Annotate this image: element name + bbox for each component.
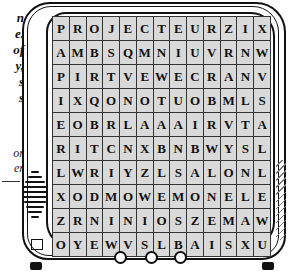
grid-cell: I bbox=[237, 17, 254, 41]
grid-cell: N bbox=[120, 209, 137, 233]
grid-cell: B bbox=[87, 41, 104, 65]
grid-cell: W bbox=[204, 137, 221, 161]
grid-cell: O bbox=[187, 185, 204, 209]
grid-cell: O bbox=[154, 209, 171, 233]
grid-cell: V bbox=[254, 65, 271, 89]
grid-cell: W bbox=[254, 41, 271, 65]
grid-cell: R bbox=[204, 65, 221, 89]
grid-cell: O bbox=[120, 185, 137, 209]
grid-cell: Z bbox=[137, 161, 154, 185]
grid-cell: E bbox=[120, 17, 137, 41]
grid-cell: R bbox=[87, 161, 104, 185]
grid-cell: I bbox=[70, 65, 87, 89]
grid-cell: M bbox=[137, 41, 154, 65]
grid-cell: A bbox=[187, 161, 204, 185]
grid-cell: N bbox=[237, 161, 254, 185]
grid-cell: E bbox=[254, 185, 271, 209]
grid-cell: L bbox=[204, 161, 221, 185]
tv-foot-right bbox=[262, 262, 274, 270]
grid-cell: X bbox=[137, 137, 154, 161]
grid-cell: O bbox=[221, 161, 238, 185]
grid-cell: X bbox=[53, 185, 70, 209]
grid-cell: S bbox=[221, 233, 238, 257]
grid-cell: R bbox=[204, 113, 221, 137]
grid-cell: X bbox=[254, 17, 271, 41]
grid-cell: I bbox=[137, 209, 154, 233]
grid-cell: S bbox=[170, 161, 187, 185]
grid-cell: M bbox=[170, 185, 187, 209]
grid-cell: M bbox=[103, 185, 120, 209]
text-fragment: n bbox=[0, 10, 24, 26]
grid-cell: B bbox=[154, 137, 171, 161]
grid-cell: W bbox=[70, 161, 87, 185]
grid-cell: O bbox=[70, 185, 87, 209]
grid-cell: N bbox=[237, 65, 254, 89]
grid-cell: C bbox=[187, 65, 204, 89]
grid-cell: P bbox=[53, 65, 70, 89]
grid-cell: R bbox=[221, 41, 238, 65]
grid-cell: A bbox=[53, 41, 70, 65]
text-fragment: s bbox=[0, 74, 24, 90]
grid-cell: N bbox=[87, 209, 104, 233]
grid-cell: L bbox=[254, 137, 271, 161]
text-fragment: s bbox=[0, 90, 24, 106]
grid-cell: Q bbox=[120, 41, 137, 65]
grid-cell: I bbox=[103, 209, 120, 233]
grid-cell: M bbox=[221, 209, 238, 233]
grid-cell: A bbox=[254, 113, 271, 137]
grid-cell: R bbox=[204, 17, 221, 41]
grid-cell: I bbox=[204, 233, 221, 257]
grid-cell: Y bbox=[70, 233, 87, 257]
grid-cell: O bbox=[53, 233, 70, 257]
tv-foot-left bbox=[30, 262, 42, 270]
text-fragment: or bbox=[0, 146, 24, 160]
grid-cell: W bbox=[254, 209, 271, 233]
grid-cell: L bbox=[237, 89, 254, 113]
grid-cell: W bbox=[154, 65, 171, 89]
grid-cell: E bbox=[53, 113, 70, 137]
grid-cell: L bbox=[254, 161, 271, 185]
text-fragment: e. bbox=[0, 26, 24, 42]
knob-2[interactable] bbox=[145, 251, 158, 264]
grid-cell: V bbox=[221, 113, 238, 137]
grid-cell: B bbox=[187, 137, 204, 161]
grid-cell: U bbox=[187, 17, 204, 41]
grid-cell: E bbox=[154, 185, 171, 209]
grid-cell: U bbox=[170, 89, 187, 113]
grid-cell: A bbox=[154, 113, 171, 137]
grid-cell: Z bbox=[53, 209, 70, 233]
text-fragment: er bbox=[0, 161, 24, 175]
grid-cell: P bbox=[53, 17, 70, 41]
grid-cell: W bbox=[137, 185, 154, 209]
grid-cell: I bbox=[103, 161, 120, 185]
grid-cell: U bbox=[187, 41, 204, 65]
grid-cell: T bbox=[237, 113, 254, 137]
grid-cell: O bbox=[103, 89, 120, 113]
grid-cell: Y bbox=[120, 161, 137, 185]
grid-cell: B bbox=[204, 89, 221, 113]
knob-3[interactable] bbox=[174, 251, 187, 264]
grid-cell: V bbox=[204, 41, 221, 65]
grid-cell: E bbox=[204, 209, 221, 233]
grid-cell: T bbox=[154, 17, 171, 41]
text-fragment: of bbox=[0, 42, 24, 58]
word-search-grid: PROJECTEURZIXAMBSQMNIUVRNWPIRTVEWECRANVI… bbox=[52, 16, 271, 257]
grid-cell: R bbox=[70, 17, 87, 41]
power-button[interactable] bbox=[31, 239, 43, 250]
grid-cell: A bbox=[221, 65, 238, 89]
grid-cell: I bbox=[187, 113, 204, 137]
grid-cell: C bbox=[137, 17, 154, 41]
grid-cell: R bbox=[70, 209, 87, 233]
grid-cell: Z bbox=[187, 209, 204, 233]
grid-cell: I bbox=[53, 89, 70, 113]
grid-cell: B bbox=[87, 113, 104, 137]
divider bbox=[2, 181, 20, 182]
grid-cell: E bbox=[170, 65, 187, 89]
grid-cell: O bbox=[87, 17, 104, 41]
grid-cell: N bbox=[237, 41, 254, 65]
grid-cell: U bbox=[254, 233, 271, 257]
text-fragment: y, bbox=[0, 58, 24, 74]
grid-cell: R bbox=[87, 65, 104, 89]
knob-1[interactable] bbox=[114, 251, 127, 264]
speaker-grille-icon bbox=[22, 168, 48, 221]
